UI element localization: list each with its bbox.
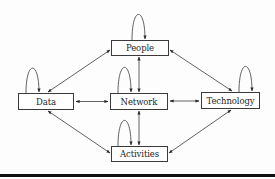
edge-data-activities — [48, 111, 110, 153]
self-loop-data — [26, 68, 39, 93]
self-loop-activities — [118, 120, 131, 146]
self-loop-people — [132, 14, 145, 40]
edge-data-people — [48, 50, 110, 92]
node-activities: Activities — [111, 146, 168, 162]
node-network-label: Network — [121, 97, 158, 107]
bottom-rule-divider — [0, 174, 275, 177]
node-technology-label: Technology — [207, 96, 255, 106]
self-loop-technology — [239, 66, 252, 92]
node-data-label: Data — [36, 97, 56, 107]
network-diagram: People Data Network Technology Activitie… — [0, 0, 275, 179]
node-technology: Technology — [201, 92, 260, 109]
edge-people-technology — [170, 50, 232, 91]
self-loop-network — [118, 67, 131, 93]
edge-technology-activities — [169, 110, 231, 153]
node-activities-label: Activities — [120, 149, 159, 159]
node-people: People — [111, 40, 169, 56]
node-people-label: People — [126, 43, 154, 53]
node-network: Network — [110, 93, 168, 110]
node-data: Data — [18, 93, 74, 110]
